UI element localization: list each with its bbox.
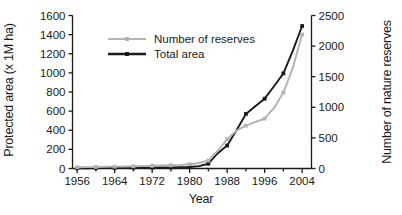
y-axis-right-tick-label: 500 (319, 132, 338, 144)
y-axis-right-tick-label: 1000 (319, 101, 345, 113)
y-axis-left-tick-label: 200 (46, 143, 65, 155)
chart-canvas: 0200400600800100012001400160005001000150… (0, 0, 402, 215)
series-marker-0 (263, 97, 267, 101)
y-axis-left-tick-label: 1600 (40, 10, 66, 22)
legend-label-1: Total area (154, 48, 205, 60)
series-marker-1 (188, 162, 192, 166)
series-marker-1 (244, 124, 248, 128)
series-marker-1 (150, 164, 154, 168)
series-marker-0 (244, 112, 248, 116)
x-axis-tick-label: 1988 (214, 175, 240, 187)
series-marker-0 (300, 24, 304, 28)
x-axis-tick-label: 1956 (64, 175, 90, 187)
series-marker-0 (281, 71, 285, 75)
y-axis-right-tick-label: 2500 (319, 10, 345, 22)
x-axis-tick-label: 1996 (252, 175, 278, 187)
series-marker-1 (225, 137, 229, 141)
legend-marker-0 (125, 37, 129, 41)
y-axis-left-tick-label: 800 (46, 86, 65, 98)
series-marker-1 (263, 117, 267, 121)
x-axis-tick-label: 1972 (139, 175, 165, 187)
x-axis-tick-label: 2004 (289, 175, 315, 187)
y-axis-right-tick-label: 1500 (319, 71, 345, 83)
series-marker-1 (169, 163, 173, 167)
legend-marker-1 (125, 52, 129, 56)
y-axis-left-tick-label: 600 (46, 105, 65, 117)
y-axis-left-tick-label: 400 (46, 124, 65, 136)
legend-label-0: Number of reserves (154, 33, 255, 45)
y-axis-left-tick-label: 1200 (40, 48, 66, 60)
y-axis-right-tick-label: 0 (319, 163, 325, 175)
y-axis-right-tick-label: 2000 (319, 40, 345, 52)
chart-figure: Protected area (x 1M ha) Number of natur… (0, 0, 402, 215)
series-marker-1 (113, 165, 117, 169)
y-axis-left-tick-label: 1400 (40, 29, 66, 41)
series-marker-1 (75, 165, 79, 169)
y-axis-right-title: Number of nature reserves (378, 2, 396, 182)
y-axis-left-title: Protected area (x 1M ha) (0, 0, 18, 180)
series-marker-1 (132, 164, 136, 168)
y-axis-left-tick-label: 0 (59, 163, 65, 175)
series-marker-1 (300, 33, 304, 37)
x-axis-tick-label: 1980 (177, 175, 203, 187)
series-marker-1 (281, 91, 285, 95)
x-axis-tick-label: 1964 (102, 175, 128, 187)
series-marker-1 (207, 159, 211, 163)
series-marker-0 (225, 144, 229, 148)
series-marker-1 (94, 165, 98, 169)
y-axis-left-tick-label: 1000 (40, 67, 66, 79)
x-axis-title: Year (0, 192, 402, 206)
